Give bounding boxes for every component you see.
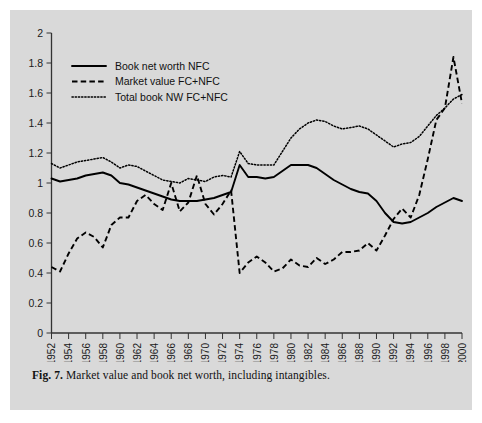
y-tick-label: 0.6 bbox=[28, 237, 43, 249]
x-tick-label: 1994 bbox=[405, 343, 416, 362]
chart-legend: Book net worth NFCMarket value FC+NFCTot… bbox=[72, 60, 228, 103]
x-tick-label: 1982 bbox=[303, 343, 314, 362]
x-tick-label: 1966 bbox=[166, 343, 177, 362]
x-tick-label: 1960 bbox=[115, 343, 126, 362]
x-tick-label: 1972 bbox=[217, 343, 228, 362]
line-chart: 00.20.40.60.811.21.41.61.82 195219541956… bbox=[10, 10, 472, 362]
x-tick-label: 2000 bbox=[457, 343, 468, 362]
legend-label: Book net worth NFC bbox=[115, 60, 210, 72]
chart-plot-area: 00.20.40.60.811.21.41.61.82 195219541956… bbox=[10, 10, 472, 362]
x-axis-ticks bbox=[52, 333, 463, 339]
y-tick-label: 2 bbox=[37, 27, 43, 39]
x-axis: 1952195419561958196019621964196619681970… bbox=[46, 333, 468, 362]
x-tick-label: 1980 bbox=[286, 343, 297, 362]
x-tick-label: 1998 bbox=[440, 343, 451, 362]
x-tick-label: 1976 bbox=[252, 343, 263, 362]
x-tick-label: 1970 bbox=[200, 343, 211, 362]
y-tick-label: 1 bbox=[37, 177, 43, 189]
figure-caption-text: Market value and book net worth, includi… bbox=[66, 369, 330, 381]
x-tick-label: 1968 bbox=[183, 343, 194, 362]
x-tick-label: 1986 bbox=[337, 343, 348, 362]
x-tick-label: 1992 bbox=[388, 343, 399, 362]
y-tick-label: 0.4 bbox=[28, 267, 43, 279]
x-tick-label: 1978 bbox=[269, 343, 280, 362]
x-tick-label: 1984 bbox=[320, 343, 331, 362]
y-tick-label: 1.8 bbox=[28, 57, 43, 69]
x-axis-tick-labels: 1952195419561958196019621964196619681970… bbox=[46, 343, 468, 362]
figure-panel: 00.20.40.60.811.21.41.61.82 195219541956… bbox=[10, 10, 472, 410]
legend-label: Total book NW FC+NFC bbox=[115, 91, 228, 103]
x-tick-label: 1964 bbox=[149, 343, 160, 362]
y-tick-label: 1.2 bbox=[28, 147, 43, 159]
y-axis-ticks bbox=[47, 33, 52, 333]
x-tick-label: 1962 bbox=[132, 343, 143, 362]
x-tick-label: 1952 bbox=[46, 343, 57, 362]
series-line bbox=[52, 165, 463, 224]
series-line bbox=[52, 57, 463, 273]
data-series-group bbox=[52, 57, 463, 273]
x-tick-label: 1954 bbox=[63, 343, 74, 362]
x-tick-label: 1990 bbox=[371, 343, 382, 362]
y-tick-label: 0.8 bbox=[28, 207, 43, 219]
y-axis: 00.20.40.60.811.21.41.61.82 bbox=[28, 27, 51, 339]
legend-label: Market value FC+NFC bbox=[115, 75, 220, 87]
x-tick-label: 1996 bbox=[423, 343, 434, 362]
x-tick-label: 1958 bbox=[98, 343, 109, 362]
y-tick-label: 0 bbox=[37, 327, 43, 339]
series-line bbox=[52, 95, 463, 184]
y-axis-tick-labels: 00.20.40.60.811.21.41.61.82 bbox=[28, 27, 43, 339]
y-tick-label: 1.4 bbox=[28, 117, 43, 129]
x-tick-label: 1956 bbox=[81, 343, 92, 362]
y-tick-label: 0.2 bbox=[28, 297, 43, 309]
figure-caption: Fig. 7. Market value and book net worth,… bbox=[32, 368, 452, 382]
x-tick-label: 1988 bbox=[354, 343, 365, 362]
x-tick-label: 1974 bbox=[234, 343, 245, 362]
y-tick-label: 1.6 bbox=[28, 87, 43, 99]
figure-number: Fig. 7. bbox=[32, 369, 63, 381]
